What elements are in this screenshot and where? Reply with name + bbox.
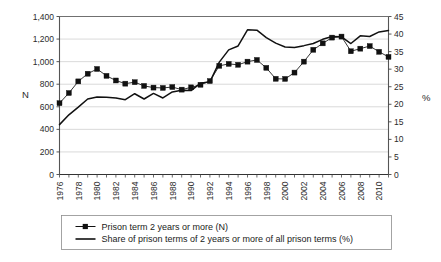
- x-tick-label: 2002: [299, 181, 309, 200]
- data-point-marker: [273, 76, 278, 81]
- data-point-marker: [358, 46, 363, 51]
- data-point-marker: [66, 91, 71, 96]
- data-point-marker: [104, 73, 109, 78]
- data-point-marker: [160, 85, 165, 90]
- x-tick-label: 2008: [356, 181, 366, 200]
- legend-label-1: Share of prison terms of 2 years or more…: [102, 234, 354, 244]
- data-point-marker: [170, 85, 175, 90]
- data-point-marker: [95, 66, 100, 71]
- y2-tick-label: 25: [394, 82, 404, 92]
- data-point-marker: [320, 41, 325, 46]
- data-point-marker: [245, 59, 250, 64]
- right-axis-title: %: [422, 92, 431, 103]
- x-tick-label: 2006: [337, 181, 347, 200]
- x-tick-label: 1980: [92, 181, 102, 200]
- data-point-marker: [217, 63, 222, 68]
- data-point-marker: [198, 82, 203, 87]
- legend: Prison term 2 years or more (N)Share of …: [62, 216, 392, 250]
- data-point-marker: [76, 79, 81, 84]
- y2-tick-label: 30: [394, 64, 404, 74]
- data-point-marker: [132, 80, 137, 85]
- y2-tick-label: 40: [394, 29, 404, 39]
- data-point-marker: [348, 49, 353, 54]
- x-tick-label: 1982: [111, 181, 121, 200]
- y2-tick-label: 15: [394, 117, 404, 127]
- y2-tick-label: 5: [394, 152, 399, 162]
- data-point-marker: [189, 85, 194, 90]
- x-tick-label: 1994: [224, 181, 234, 200]
- x-tick-label: 1998: [262, 181, 272, 200]
- y-tick-label: 600: [40, 102, 54, 112]
- y-tick-label: 400: [40, 124, 54, 134]
- x-tick-label: 1984: [130, 181, 140, 200]
- data-point-marker: [386, 54, 391, 59]
- data-point-marker: [311, 47, 316, 52]
- y-tick-label: 1,000: [33, 57, 55, 67]
- x-tick-label: 1988: [168, 181, 178, 200]
- y2-tick-label: 45: [394, 12, 404, 22]
- data-point-marker: [142, 83, 147, 88]
- data-point-marker: [123, 81, 128, 86]
- data-point-marker: [236, 62, 241, 67]
- x-tick-label: 1992: [205, 181, 215, 200]
- y2-tick-label: 0: [394, 170, 399, 180]
- y-tick-label: 1,200: [33, 34, 55, 44]
- data-point-marker: [151, 85, 156, 90]
- x-tick-label: 2010: [374, 181, 384, 200]
- data-point-marker: [301, 59, 306, 64]
- y2-tick-label: 20: [394, 99, 404, 109]
- data-point-marker: [367, 44, 372, 49]
- y-tick-label: 200: [40, 147, 54, 157]
- left-axis-title: N: [22, 89, 29, 100]
- y-tick-label: 1,400: [33, 12, 55, 22]
- data-point-marker: [226, 61, 231, 66]
- x-tick-label: 1986: [149, 181, 159, 200]
- y2-tick-label: 35: [394, 47, 404, 57]
- data-point-marker: [283, 76, 288, 81]
- data-point-marker: [113, 78, 118, 83]
- y2-tick-label: 10: [394, 134, 404, 144]
- data-point-marker: [57, 101, 62, 106]
- data-point-marker: [264, 65, 269, 70]
- data-point-marker: [254, 57, 259, 62]
- legend-label-0: Prison term 2 years or more (N): [102, 222, 229, 232]
- legend-border: [62, 216, 392, 250]
- x-tick-label: 1996: [243, 181, 253, 200]
- legend-square-marker-icon: [83, 224, 88, 229]
- x-tick-label: 2004: [318, 181, 328, 200]
- chart-figure: 02004006008001,0001,2001,400 05101520253…: [0, 0, 441, 262]
- data-point-marker: [292, 70, 297, 75]
- line-chart: 02004006008001,0001,2001,400 05101520253…: [0, 0, 441, 262]
- x-tick-label: 1976: [55, 181, 65, 200]
- x-tick-label: 2000: [280, 181, 290, 200]
- data-point-marker: [85, 71, 90, 76]
- data-point-marker: [179, 87, 184, 92]
- y-tick-label: 800: [40, 79, 54, 89]
- x-tick-label: 1978: [74, 181, 84, 200]
- data-point-marker: [330, 35, 335, 40]
- data-point-marker: [207, 79, 212, 84]
- data-point-marker: [339, 34, 344, 39]
- y-tick-label: 0: [49, 170, 54, 180]
- x-tick-label: 1990: [186, 181, 196, 200]
- data-point-marker: [377, 49, 382, 54]
